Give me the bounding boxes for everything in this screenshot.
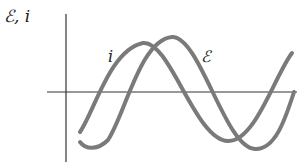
emf-curve-label: ℰ bbox=[201, 47, 211, 66]
y-axis-label: ℰ, i bbox=[4, 6, 30, 26]
waveform-diagram: ℰ, i i ℰ bbox=[0, 0, 299, 165]
current-curve-label: i bbox=[108, 47, 113, 66]
waveform-plot bbox=[0, 0, 299, 165]
